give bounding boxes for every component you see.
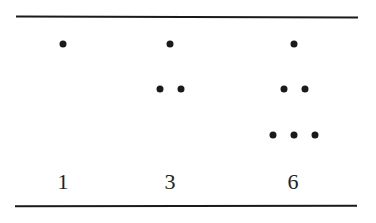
dot <box>291 132 298 139</box>
bottom-rule <box>15 205 357 208</box>
dot <box>312 132 319 139</box>
dot <box>60 41 67 48</box>
column-label-1: 1 <box>58 169 69 195</box>
column-label-2: 3 <box>165 169 176 195</box>
dot <box>167 41 174 48</box>
column-label-3: 6 <box>288 169 299 195</box>
dot <box>280 86 287 93</box>
top-rule <box>16 16 358 19</box>
dot <box>301 86 308 93</box>
dot <box>177 86 184 93</box>
dot <box>291 41 298 48</box>
dot <box>270 132 277 139</box>
dot <box>156 86 163 93</box>
